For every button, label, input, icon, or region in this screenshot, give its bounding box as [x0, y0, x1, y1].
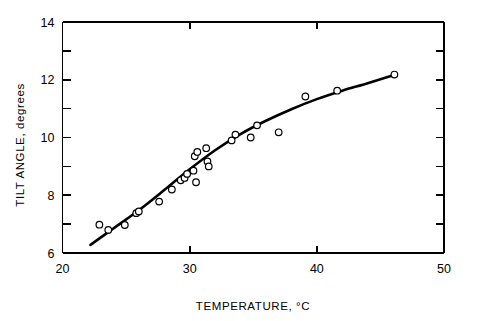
data-point-marker: [193, 179, 200, 186]
data-point-marker: [105, 227, 112, 234]
data-point-marker: [334, 87, 341, 94]
x-tick-label: 20: [56, 262, 70, 276]
data-point-marker: [254, 122, 261, 129]
data-point-marker: [184, 171, 191, 178]
tilt-angle-vs-temperature-chart: 20304050 68101214 TEMPERATURE, °C TILT A…: [0, 0, 482, 321]
data-point-marker: [302, 93, 309, 100]
data-point-marker: [136, 208, 143, 215]
data-point-marker: [96, 221, 103, 228]
data-point-marker: [190, 167, 197, 174]
data-point-marker: [247, 134, 254, 141]
data-point-marker: [275, 129, 282, 136]
data-point-marker: [391, 71, 398, 78]
y-tick-label: 12: [41, 73, 55, 87]
x-tick-label: 50: [437, 262, 451, 276]
y-axis-title: TILT ANGLE, degrees: [14, 83, 26, 206]
x-tick-label: 40: [310, 262, 324, 276]
y-tick-label: 6: [48, 247, 55, 261]
figure-container: 20304050 68101214 TEMPERATURE, °C TILT A…: [0, 0, 482, 321]
y-tick-label: 10: [41, 131, 55, 145]
data-point-marker: [203, 145, 210, 152]
data-point-marker: [169, 186, 176, 193]
figure-background: [0, 0, 482, 321]
data-point-marker: [156, 198, 163, 205]
x-axis-title: TEMPERATURE, °C: [196, 300, 310, 312]
data-point-marker: [205, 163, 212, 170]
data-point-marker: [232, 131, 239, 138]
data-point-marker: [122, 222, 129, 229]
y-tick-label: 14: [41, 16, 55, 30]
data-point-marker: [194, 149, 201, 156]
y-tick-label: 8: [48, 189, 55, 203]
x-tick-label: 30: [183, 262, 197, 276]
